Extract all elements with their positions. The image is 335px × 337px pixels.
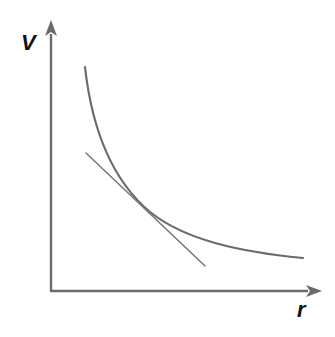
x-axis-label: r [297, 299, 306, 321]
curve [85, 67, 303, 258]
horizontal-axis [50, 285, 322, 297]
vertical-axis [45, 20, 57, 291]
vertical-axis-arrow-icon [45, 20, 57, 36]
y-axis-label: V [21, 32, 36, 54]
tangent-line [86, 153, 205, 266]
horizontal-axis-arrow-icon [306, 285, 322, 297]
diagram-canvas [0, 0, 335, 337]
